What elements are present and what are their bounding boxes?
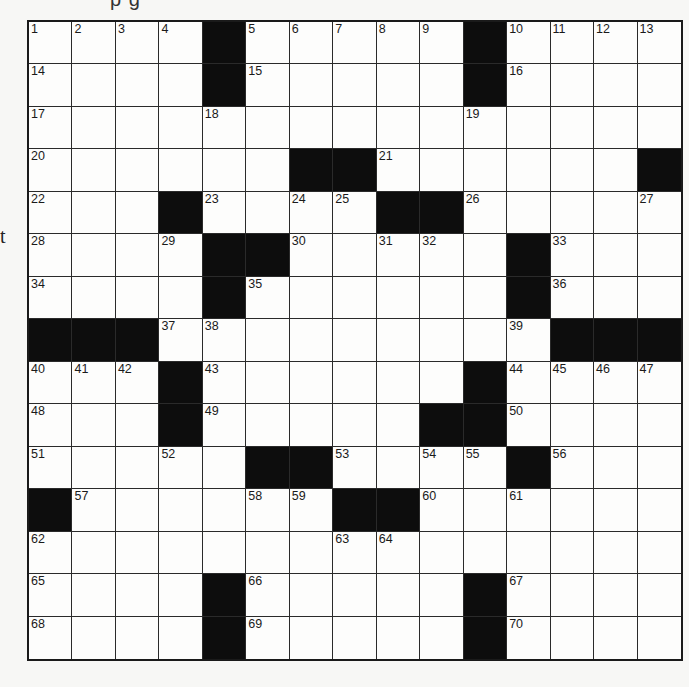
grid-cell[interactable] [551, 617, 594, 659]
grid-cell[interactable] [159, 277, 202, 319]
grid-cell[interactable]: 14 [29, 64, 72, 106]
grid-cell[interactable] [333, 319, 376, 361]
grid-cell[interactable] [290, 574, 333, 616]
grid-cell[interactable]: 33 [551, 234, 594, 276]
grid-cell[interactable]: 1 [29, 22, 72, 64]
grid-cell[interactable] [594, 64, 637, 106]
grid-cell[interactable] [159, 149, 202, 191]
grid-cell[interactable] [116, 149, 159, 191]
grid-cell[interactable] [594, 574, 637, 616]
grid-cell[interactable] [551, 574, 594, 616]
grid-cell[interactable]: 37 [159, 319, 202, 361]
grid-cell[interactable]: 13 [638, 22, 681, 64]
grid-cell[interactable]: 12 [594, 22, 637, 64]
grid-cell[interactable] [290, 319, 333, 361]
grid-cell[interactable] [72, 107, 115, 149]
grid-cell[interactable] [246, 404, 289, 446]
grid-cell[interactable]: 50 [507, 404, 550, 446]
grid-cell[interactable] [72, 447, 115, 489]
grid-cell[interactable] [333, 64, 376, 106]
grid-cell[interactable] [638, 234, 681, 276]
grid-cell[interactable] [420, 319, 463, 361]
grid-cell[interactable]: 66 [246, 574, 289, 616]
grid-cell[interactable]: 57 [72, 489, 115, 531]
grid-cell[interactable]: 44 [507, 362, 550, 404]
grid-cell[interactable] [551, 64, 594, 106]
grid-cell[interactable]: 60 [420, 489, 463, 531]
grid-cell[interactable] [290, 617, 333, 659]
grid-cell[interactable]: 70 [507, 617, 550, 659]
grid-cell[interactable]: 20 [29, 149, 72, 191]
grid-cell[interactable]: 21 [377, 149, 420, 191]
grid-cell[interactable] [594, 617, 637, 659]
grid-cell[interactable] [594, 149, 637, 191]
grid-cell[interactable]: 68 [29, 617, 72, 659]
grid-cell[interactable]: 58 [246, 489, 289, 531]
grid-cell[interactable]: 45 [551, 362, 594, 404]
grid-cell[interactable] [594, 532, 637, 574]
grid-cell[interactable] [377, 319, 420, 361]
grid-cell[interactable] [116, 617, 159, 659]
grid-cell[interactable] [638, 617, 681, 659]
grid-cell[interactable] [638, 532, 681, 574]
grid-cell[interactable] [116, 64, 159, 106]
grid-cell[interactable] [246, 362, 289, 404]
grid-cell[interactable]: 17 [29, 107, 72, 149]
grid-cell[interactable]: 67 [507, 574, 550, 616]
grid-cell[interactable] [594, 234, 637, 276]
grid-cell[interactable] [507, 149, 550, 191]
grid-cell[interactable] [551, 149, 594, 191]
grid-cell[interactable] [377, 617, 420, 659]
grid-cell[interactable] [464, 234, 507, 276]
grid-cell[interactable] [594, 404, 637, 446]
grid-cell[interactable] [116, 574, 159, 616]
grid-cell[interactable] [246, 192, 289, 234]
grid-cell[interactable] [638, 574, 681, 616]
grid-cell[interactable]: 19 [464, 107, 507, 149]
grid-cell[interactable] [594, 489, 637, 531]
grid-cell[interactable] [116, 192, 159, 234]
grid-cell[interactable] [594, 447, 637, 489]
grid-cell[interactable] [116, 107, 159, 149]
grid-cell[interactable] [72, 532, 115, 574]
grid-cell[interactable]: 43 [203, 362, 246, 404]
grid-cell[interactable] [333, 234, 376, 276]
grid-cell[interactable] [638, 64, 681, 106]
grid-cell[interactable]: 52 [159, 447, 202, 489]
grid-cell[interactable]: 53 [333, 447, 376, 489]
grid-cell[interactable] [116, 277, 159, 319]
grid-cell[interactable] [420, 107, 463, 149]
grid-cell[interactable] [638, 447, 681, 489]
grid-cell[interactable] [638, 107, 681, 149]
grid-cell[interactable]: 65 [29, 574, 72, 616]
grid-cell[interactable]: 2 [72, 22, 115, 64]
grid-cell[interactable] [377, 574, 420, 616]
grid-cell[interactable] [464, 149, 507, 191]
grid-cell[interactable] [72, 192, 115, 234]
grid-cell[interactable]: 16 [507, 64, 550, 106]
grid-cell[interactable] [203, 447, 246, 489]
grid-cell[interactable]: 48 [29, 404, 72, 446]
grid-cell[interactable]: 38 [203, 319, 246, 361]
grid-cell[interactable] [246, 319, 289, 361]
grid-cell[interactable] [72, 404, 115, 446]
grid-cell[interactable] [464, 319, 507, 361]
grid-cell[interactable]: 69 [246, 617, 289, 659]
grid-cell[interactable] [72, 234, 115, 276]
grid-cell[interactable] [464, 532, 507, 574]
grid-cell[interactable] [203, 149, 246, 191]
grid-cell[interactable] [638, 489, 681, 531]
grid-cell[interactable]: 6 [290, 22, 333, 64]
grid-cell[interactable]: 27 [638, 192, 681, 234]
grid-cell[interactable] [116, 447, 159, 489]
grid-cell[interactable]: 41 [72, 362, 115, 404]
grid-cell[interactable] [551, 192, 594, 234]
grid-cell[interactable]: 39 [507, 319, 550, 361]
grid-cell[interactable] [507, 532, 550, 574]
grid-cell[interactable]: 54 [420, 447, 463, 489]
grid-cell[interactable]: 5 [246, 22, 289, 64]
grid-cell[interactable]: 59 [290, 489, 333, 531]
grid-cell[interactable]: 3 [116, 22, 159, 64]
grid-cell[interactable]: 34 [29, 277, 72, 319]
grid-cell[interactable] [594, 277, 637, 319]
